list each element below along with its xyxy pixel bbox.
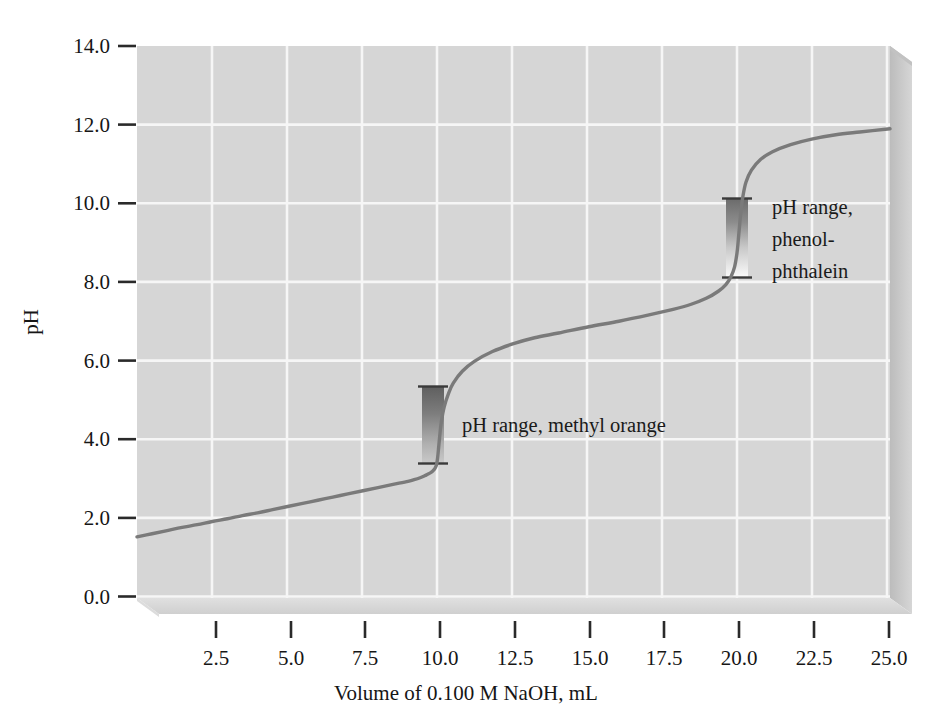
y-tick-label: 14.0 — [73, 34, 110, 58]
titration-curve-figure: 14.0 12.0 10.0 8.0 6.0 4.0 2.0 0.0 2.5 5… — [0, 0, 933, 715]
y-axis-tick-labels: 14.0 12.0 10.0 8.0 6.0 4.0 2.0 0.0 — [73, 34, 110, 609]
x-tick-label: 20.0 — [721, 646, 758, 670]
phenolphthalein-annotation-line-1: pH range, — [772, 196, 853, 219]
y-tick-label: 2.0 — [84, 506, 110, 530]
x-tick-label: 22.5 — [796, 646, 833, 670]
y-tick-label: 4.0 — [84, 427, 110, 451]
plot-right-wall-3d — [890, 46, 912, 614]
y-tick-label: 6.0 — [84, 349, 110, 373]
chart-canvas: 14.0 12.0 10.0 8.0 6.0 4.0 2.0 0.0 2.5 5… — [0, 0, 933, 715]
y-tick-label: 12.0 — [73, 113, 110, 137]
x-axis-title: Volume of 0.100 M NaOH, mL — [334, 681, 598, 705]
x-tick-label: 25.0 — [871, 646, 908, 670]
x-tick-label: 15.0 — [572, 646, 609, 670]
y-axis-title: pH — [19, 309, 43, 335]
phenolphthalein-annotation-line-3: phthalein — [772, 260, 848, 283]
y-tick-label: 0.0 — [84, 585, 110, 609]
plot-floor-3d — [137, 598, 912, 617]
x-tick-label: 17.5 — [646, 646, 683, 670]
x-axis-ticks — [216, 621, 889, 638]
x-tick-label: 10.0 — [422, 646, 459, 670]
y-tick-label: 10.0 — [73, 191, 110, 215]
x-tick-label: 12.5 — [497, 646, 534, 670]
x-tick-label: 5.0 — [278, 646, 304, 670]
y-axis-ticks — [118, 46, 136, 597]
y-tick-label: 8.0 — [84, 270, 110, 294]
phenolphthalein-annotation-line-2: phenol- — [772, 228, 835, 251]
x-tick-label: 7.5 — [352, 646, 378, 670]
methyl-orange-band — [418, 387, 448, 464]
methyl-orange-annotation-label: pH range, methyl orange — [462, 414, 666, 437]
x-tick-label: 2.5 — [203, 646, 229, 670]
x-axis-tick-labels: 2.5 5.0 7.5 10.0 12.5 15.0 17.5 20.0 22.… — [203, 646, 908, 670]
